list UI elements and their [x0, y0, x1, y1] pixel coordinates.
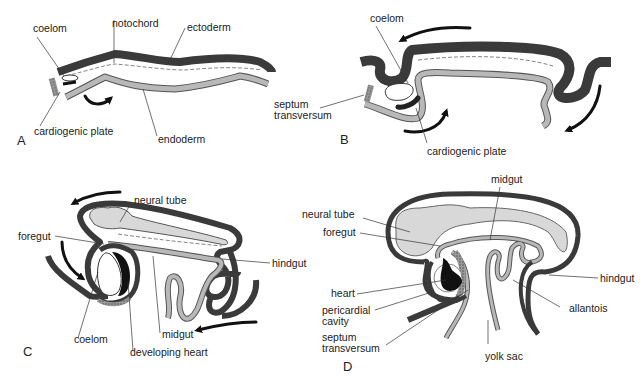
coelom-a — [62, 75, 78, 81]
panel-b: coelom septum transversum cardiogenic pl… — [274, 12, 611, 157]
label-hindgut-d: hindgut — [600, 272, 635, 284]
label-coelom-c: coelom — [74, 333, 108, 345]
endoderm-a — [66, 76, 268, 97]
folding-arrow-c-bottom — [198, 322, 256, 330]
folding-arrow-b-top — [402, 28, 470, 41]
label-midgut-c: midgut — [162, 328, 194, 340]
septum-b — [364, 84, 374, 102]
label-allantois-d: allantois — [569, 302, 608, 314]
notochord-line-a — [66, 64, 262, 76]
folding-arrow-c-left — [62, 242, 82, 278]
panel-letter-a: A — [17, 133, 26, 148]
septum-a — [49, 78, 59, 97]
panel-d: midgut neural tube foregut hindgut heart… — [302, 173, 635, 374]
embryo-folding-diagram: coelom notochord ectoderm cardiogenic pl… — [0, 0, 643, 379]
panel-c: neural tube foregut hindgut coelom midgu… — [18, 192, 307, 359]
notochord-line-b — [418, 57, 553, 66]
label-coelom-b: coelom — [370, 12, 404, 24]
folding-arrow-a — [85, 96, 110, 104]
label-notochord-a: notochord — [112, 17, 159, 29]
panel-letter-d: D — [343, 359, 352, 374]
label-heart-d: heart — [331, 287, 355, 299]
label-endoderm-a: endoderm — [158, 133, 206, 145]
label-foregut-d: foregut — [323, 226, 356, 238]
label-ectoderm-a: ectoderm — [187, 21, 231, 33]
body-wall-d — [408, 298, 460, 320]
label-foregut-c: foregut — [18, 230, 51, 242]
coelom-b — [385, 83, 413, 100]
cardiogenic-plate-a — [63, 82, 76, 84]
label-cardiogenic-plate-a: cardiogenic plate — [34, 125, 114, 137]
label-neural-tube-d: neural tube — [302, 208, 355, 220]
label-septum-b-2: transversum — [274, 109, 332, 121]
label-septum-d-2: transversum — [322, 342, 380, 354]
neural-tube-c — [90, 207, 228, 245]
panel-letter-b: B — [340, 132, 349, 147]
label-developing-heart-c: developing heart — [130, 346, 208, 358]
label-neural-tube-c: neural tube — [134, 194, 187, 206]
label-yolk-sac-d: yolk sac — [485, 350, 523, 362]
label-hindgut-c: hindgut — [272, 257, 307, 269]
panel-letter-c: C — [23, 344, 32, 359]
label-pericardial-d-2: cavity — [322, 315, 350, 327]
label-coelom-a: coelom — [33, 22, 67, 34]
panel-a: coelom notochord ectoderm cardiogenic pl… — [17, 17, 272, 148]
label-midgut-d: midgut — [491, 173, 523, 185]
label-cardiogenic-plate-b: cardiogenic plate — [427, 145, 507, 157]
